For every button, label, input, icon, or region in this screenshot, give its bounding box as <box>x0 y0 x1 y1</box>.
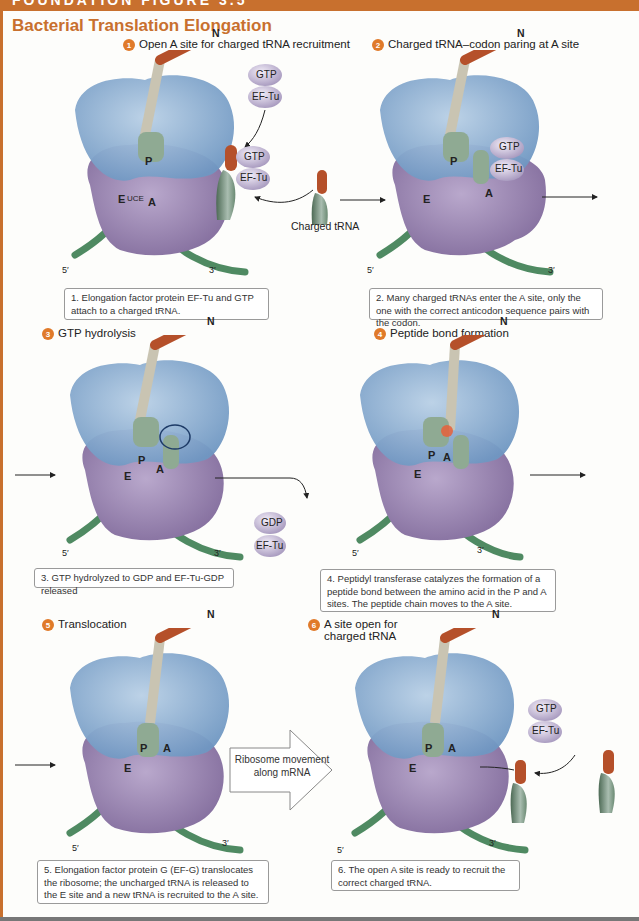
n-terminus-label: N <box>517 27 525 39</box>
factor-eftu-label: EF-Tu <box>256 540 283 551</box>
p-site-label: P <box>138 454 145 466</box>
n-terminus-label: N <box>500 315 508 327</box>
factor-gtp-label: GTP <box>536 703 557 714</box>
e-site-label: E <box>124 762 131 774</box>
factor-gtp-label: GTP <box>256 69 277 80</box>
ribosome-illustration <box>365 50 565 285</box>
step-badge: 5 <box>42 619 54 631</box>
factor-eftu-label: EF-Tu <box>252 91 279 102</box>
e-site-label: E <box>414 468 421 480</box>
charged-trna-label: Charged tRNA <box>291 220 359 232</box>
e-site-label: E <box>409 762 416 774</box>
step-2-caption: 2. Many charged tRNAs enter the A site, … <box>369 288 603 320</box>
n-terminus-label: N <box>207 315 215 327</box>
figure-label: FOUNDATION FIGURE 3.5 <box>12 0 247 8</box>
step-6-caption: 6. The open A site is ready to recruit t… <box>331 860 520 891</box>
step-3-caption: 3. GTP hydrolyzed to GDP and EF-Tu-GDP r… <box>34 568 234 588</box>
a-site-label: A <box>443 451 451 463</box>
a-site-label: A <box>163 742 171 754</box>
step-6-factor-complex <box>480 695 639 825</box>
bottom-border-rule <box>0 917 639 921</box>
e-site-label: E <box>124 470 131 482</box>
five-prime-label: 5′ <box>352 548 359 558</box>
n-terminus-label: N <box>492 608 500 620</box>
step-4-caption: 4. Peptidyl transferase catalyzes the fo… <box>320 569 556 612</box>
p-site-label: P <box>425 742 432 754</box>
a-site-label: A <box>156 463 164 475</box>
a-site-label: A <box>485 187 493 199</box>
three-prime-label: 3′ <box>477 545 484 555</box>
factor-eftu-label: EF-Tu <box>532 725 559 736</box>
step-title: Charged tRNA–codon paring at A site <box>388 38 579 50</box>
p-site-label: P <box>140 742 147 754</box>
five-prime-label: 5′ <box>72 843 79 853</box>
step-title: Open A site for charged tRNA recruitment <box>139 38 350 50</box>
five-prime-label: 5′ <box>367 265 374 275</box>
n-terminus-label: N <box>207 608 215 620</box>
figure-title: Bacterial Translation Elongation <box>12 16 272 36</box>
p-site-label: P <box>428 449 435 461</box>
step-5-ribosome-panel <box>55 628 255 863</box>
anticodon-label: UCE <box>127 194 144 203</box>
factor-eftu-label: EF-Tu <box>240 172 267 183</box>
step-5-caption: 5. Elongation factor protein G (EF-G) tr… <box>37 860 269 904</box>
step-2-ribosome-panel <box>365 50 565 285</box>
p-site-label: P <box>450 155 457 167</box>
ribosome-illustration <box>55 628 255 863</box>
five-prime-label: 5′ <box>337 845 344 855</box>
factor-gdp-label: GDP <box>261 517 283 528</box>
step-1-caption: 1. Elongation factor protein EF-Tu and G… <box>64 288 269 320</box>
three-prime-label: 3′ <box>489 838 496 848</box>
step-badge: 3 <box>42 328 54 340</box>
flow-arrow <box>0 760 60 770</box>
e-site-label: E <box>423 193 430 205</box>
factor-eftu-label: EF-Tu <box>495 163 522 174</box>
e-site-label: E <box>118 193 125 205</box>
flow-arrow <box>530 470 590 480</box>
step-1-factor-complex <box>205 55 355 225</box>
left-border-rule <box>0 11 3 921</box>
a-site-label: A <box>148 196 156 208</box>
three-prime-label: 3′ <box>222 838 229 848</box>
factor-gtp-label: GTP <box>499 141 520 152</box>
step-badge: 6 <box>308 619 320 631</box>
p-site-label: P <box>145 155 152 167</box>
five-prime-label: 5′ <box>62 548 69 558</box>
three-prime-label: 3′ <box>548 265 555 275</box>
a-site-label: A <box>448 742 456 754</box>
movement-arrow-label: Ribosome movement along mRNA <box>232 753 332 779</box>
figure-header-bar: FOUNDATION FIGURE 3.5 <box>0 0 639 11</box>
n-terminus-label: N <box>212 27 220 39</box>
three-prime-label: 3′ <box>209 265 216 275</box>
flow-arrow <box>0 470 60 480</box>
five-prime-label: 5′ <box>62 265 69 275</box>
flow-arrow <box>542 192 602 202</box>
factor-gtp-label: GTP <box>244 151 265 162</box>
